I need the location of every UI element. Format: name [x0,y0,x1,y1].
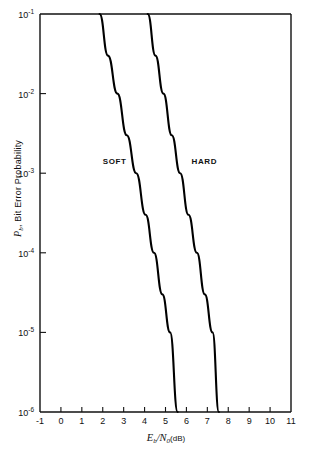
y-tick-mantissa: 10 [18,249,28,259]
x-tick-label: 6 [175,416,197,426]
x-axis-title: Eb/N0(dB) [40,432,292,445]
plot-frame [40,14,291,412]
y-tick-exponent: -4 [28,247,34,254]
y-tick-exponent: -3 [28,167,34,174]
y-axis-title: Pb, Bit Error Probability [12,109,25,269]
ber-performance-chart: Pb, Bit Error Probability Eb/N0(dB) -101… [0,0,318,455]
series-label-hard: HARD [192,157,218,166]
plot-canvas [0,0,318,455]
x-tick-label: 4 [134,416,156,426]
x-tick-label: 0 [50,416,72,426]
y-tick-mantissa: 10 [18,328,28,338]
x-tick-label: 9 [238,416,260,426]
y-tick-exponent: -5 [28,326,34,333]
curve-soft [100,14,178,412]
x-tick-label: 11 [280,416,302,426]
y-tick-exponent: -2 [28,88,34,95]
y-tick-label: 10-6 [6,406,34,418]
y-tick-mantissa: 10 [18,10,28,20]
data-curves [100,14,219,412]
y-tick-mantissa: 10 [18,169,28,179]
x-tick-label: 2 [92,416,114,426]
x-tick-label: 7 [196,416,218,426]
y-axis-ticks [40,94,46,333]
y-tick-exponent: -6 [28,406,34,413]
y-tick-label: 10-1 [6,8,34,20]
y-tick-label: 10-3 [6,167,34,179]
y-tick-label: 10-5 [6,326,34,338]
y-tick-exponent: -1 [28,8,34,15]
y-tick-label: 10-2 [6,88,34,100]
y-axis-title-symbol: P [12,231,23,237]
y-axis-title-text: , Bit Error Probability [13,140,23,227]
x-tick-label: 8 [217,416,239,426]
x-tick-label: 3 [113,416,135,426]
x-axis-ticks [61,407,270,412]
y-tick-label: 10-4 [6,247,34,259]
x-tick-label: 1 [71,416,93,426]
y-tick-mantissa: 10 [18,90,28,100]
x-tick-label: 5 [155,416,177,426]
x-tick-label: 10 [259,416,281,426]
x-axis-title-n: N [160,432,167,443]
curve-hard [148,14,219,412]
y-tick-mantissa: 10 [18,408,28,418]
x-axis-title-unit: (dB) [170,434,185,443]
series-label-soft: SOFT [103,157,127,166]
y-axis-title-subscript: b [17,227,25,231]
